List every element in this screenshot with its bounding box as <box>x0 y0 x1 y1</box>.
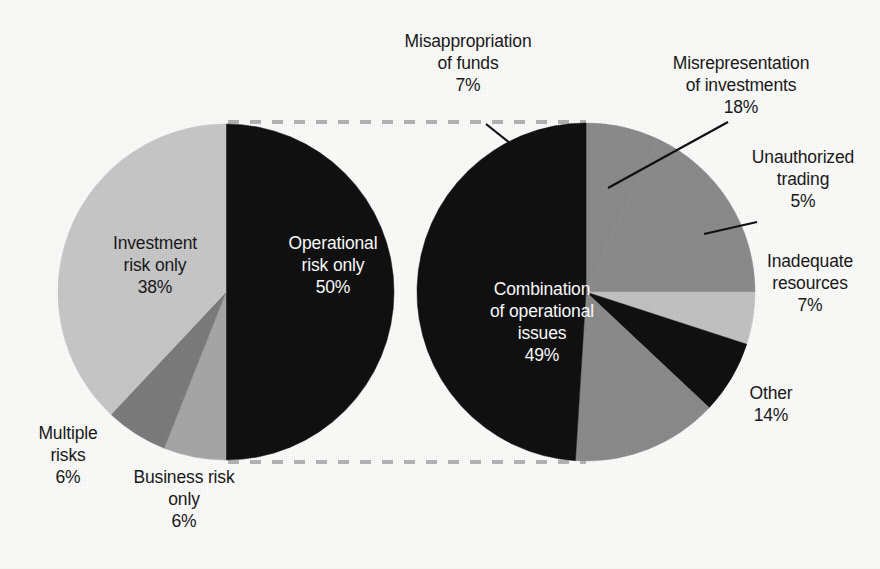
label-line-2: risks <box>8 444 128 466</box>
right-slice-label-misrepresentation-of-investments: Misrepresentation of investments 18% <box>636 52 846 118</box>
label-line-2: only <box>104 488 264 510</box>
label-line-2: risk only <box>80 254 230 276</box>
label-percent: 18% <box>636 96 846 118</box>
label-line-2: of operational <box>452 300 632 322</box>
right-slice-label-inadequate-resources: Inadequate resources 7% <box>740 250 880 316</box>
label-percent: 7% <box>368 74 568 96</box>
label-line-1: Misrepresentation <box>636 52 846 74</box>
label-line-1: Unauthorized <box>728 146 878 168</box>
right-slice-label-other: Other 14% <box>716 382 826 426</box>
label-line-1: Misappropriation <box>368 30 568 52</box>
label-line-2: trading <box>728 168 878 190</box>
label-line-2: of investments <box>636 74 846 96</box>
right-slice-label-misappropriation-of-funds: Misappropriation of funds 7% <box>368 30 568 96</box>
pie-chart-figure: Operational risk only 50% Investment ris… <box>0 0 880 569</box>
label-line-1: Combination <box>452 278 632 300</box>
label-line-1: Other <box>716 382 826 404</box>
label-percent: 49% <box>452 344 632 366</box>
label-percent: 14% <box>716 404 826 426</box>
label-line-1: Multiple <box>8 422 128 444</box>
label-line-2: of funds <box>368 52 568 74</box>
label-percent: 6% <box>104 510 264 532</box>
left-slice-label-investment-risk-only: Investment risk only 38% <box>80 232 230 298</box>
right-slice-label-unauthorized-trading: Unauthorized trading 5% <box>728 146 878 212</box>
right-slice-label-combination-of-operational-issues: Combination of operational issues 49% <box>452 278 632 366</box>
left-slice-label-business-risk-only: Business risk only 6% <box>104 466 264 532</box>
label-line-1: Operational <box>258 232 408 254</box>
label-percent: 5% <box>728 190 878 212</box>
label-percent: 7% <box>740 294 880 316</box>
label-percent: 38% <box>80 276 230 298</box>
label-line-1: Investment <box>80 232 230 254</box>
label-line-3: issues <box>452 322 632 344</box>
label-percent: 50% <box>258 276 408 298</box>
label-line-1: Business risk <box>104 466 264 488</box>
label-line-1: Inadequate <box>740 250 880 272</box>
left-slice-label-operational-risk-only: Operational risk only 50% <box>258 232 408 298</box>
label-line-2: risk only <box>258 254 408 276</box>
label-line-2: resources <box>740 272 880 294</box>
